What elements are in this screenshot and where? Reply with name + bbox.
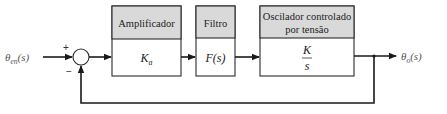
vco-numerator: K [302, 43, 312, 57]
vco-label-line1: Oscilador controlado [263, 11, 351, 22]
output-signal-label: θo(s) [401, 50, 422, 65]
svg-text:θo(s): θo(s) [401, 50, 422, 65]
summing-junction [73, 49, 89, 65]
amplifier-block: Amplificador Ka [112, 6, 181, 76]
amplifier-label: Amplificador [118, 18, 175, 29]
filter-label: Filtro [204, 18, 227, 29]
plus-sign: + [63, 42, 69, 53]
minus-sign: − [66, 66, 72, 77]
vco-block: Oscilador controlado por tensão K s [260, 6, 354, 76]
svg-text:θen(s): θen(s) [5, 51, 29, 66]
vco-label-line2: por tensão [285, 24, 328, 35]
input-argument: (s) [18, 51, 30, 64]
filter-block: Filtro F(s) [196, 6, 235, 76]
output-argument: (s) [410, 50, 422, 63]
input-signal-label: θen(s) [5, 51, 29, 66]
block-diagram: θen(s) + − Amplificador Ka Filtro F(s) O… [0, 0, 447, 114]
vco-denominator: s [305, 59, 310, 73]
filter-transfer-function: F(s) [205, 51, 226, 65]
